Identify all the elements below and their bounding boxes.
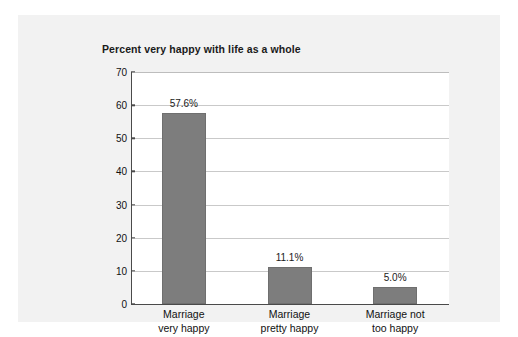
bar-0[interactable] xyxy=(162,113,206,304)
y-tick-label-20: 20 xyxy=(101,232,127,243)
figure-panel: Percent very happy with life as a whole … xyxy=(18,15,500,322)
bar-value-label-0: 57.6% xyxy=(170,98,198,109)
x-label-line: very happy xyxy=(158,322,209,336)
x-label-line: pretty happy xyxy=(261,322,319,336)
y-tick-mark-40 xyxy=(131,171,135,172)
bar-value-label-2: 5.0% xyxy=(384,272,407,283)
y-tick-label-10: 10 xyxy=(101,265,127,276)
bars-layer: 57.6%11.1%5.0% xyxy=(131,72,448,304)
y-tick-mark-10 xyxy=(131,270,135,271)
bar-2[interactable] xyxy=(373,287,417,304)
y-tick-label-50: 50 xyxy=(101,133,127,144)
y-tick-label-70: 70 xyxy=(101,67,127,78)
bar-1[interactable] xyxy=(268,267,312,304)
x-label-line: Marriage not xyxy=(366,308,425,322)
x-axis-category-labels: Marriagevery happyMarriagepretty happyMa… xyxy=(131,308,448,337)
x-category-label-0: Marriagevery happy xyxy=(158,308,209,335)
x-category-label-1: Marriagepretty happy xyxy=(261,308,319,335)
y-tick-mark-50 xyxy=(131,138,135,139)
y-tick-mark-30 xyxy=(131,204,135,205)
bar-value-label-1: 11.1% xyxy=(276,252,304,263)
x-label-line: Marriage xyxy=(158,308,209,322)
y-tick-label-60: 60 xyxy=(101,100,127,111)
x-label-line: too happy xyxy=(366,322,425,336)
y-tick-label-30: 30 xyxy=(101,199,127,210)
chart-title: Percent very happy with life as a whole xyxy=(102,43,301,55)
y-tick-mark-70 xyxy=(131,71,135,72)
y-tick-label-40: 40 xyxy=(101,166,127,177)
x-category-label-2: Marriage nottoo happy xyxy=(366,308,425,335)
y-tick-label-0: 0 xyxy=(101,299,127,310)
y-tick-mark-60 xyxy=(131,104,135,105)
x-label-line: Marriage xyxy=(261,308,319,322)
y-tick-mark-20 xyxy=(131,237,135,238)
y-axis-tick-labels: 010203040506070 xyxy=(97,72,127,304)
y-tick-mark-0 xyxy=(131,303,135,304)
